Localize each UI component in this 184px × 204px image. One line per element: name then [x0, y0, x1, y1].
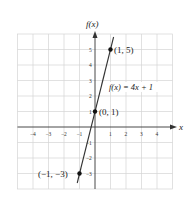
svg-text:−4: −4	[30, 131, 36, 137]
point-label-0-1: (0, 1)	[99, 107, 119, 117]
svg-text:4: 4	[156, 131, 159, 137]
point-label-neg1-neg3: (−1, −3)	[38, 169, 68, 179]
y-axis-label: f(x)	[86, 19, 99, 29]
svg-text:−3: −3	[86, 171, 92, 177]
y-axis-arrow-icon	[93, 31, 98, 38]
svg-text:1: 1	[109, 131, 112, 137]
svg-text:5: 5	[89, 47, 92, 53]
svg-text:−3: −3	[46, 131, 52, 137]
svg-text:4: 4	[89, 62, 92, 68]
svg-text:2: 2	[125, 131, 128, 137]
svg-text:2: 2	[89, 93, 92, 99]
point-0-1	[93, 109, 97, 113]
function-graph: x f(x) −4 −3 −2 −1 1 2 3 4 5 4 3 2 1 −1 …	[0, 0, 184, 204]
svg-text:1: 1	[89, 109, 92, 115]
svg-text:−2: −2	[86, 155, 92, 161]
svg-text:3: 3	[140, 131, 143, 137]
svg-text:−1: −1	[77, 131, 83, 137]
x-tick-labels: −4 −3 −2 −1 1 2 3 4	[30, 131, 159, 137]
point-neg1-neg3	[77, 171, 81, 175]
point-1-5	[108, 47, 112, 51]
x-axis-label: x	[178, 122, 183, 132]
point-label-1-5: (1, 5)	[114, 45, 134, 55]
svg-text:3: 3	[89, 78, 92, 84]
svg-text:−2: −2	[61, 131, 67, 137]
equation-label: f(x) = 4x + 1	[109, 82, 153, 92]
x-axis-arrow-icon	[170, 125, 177, 130]
